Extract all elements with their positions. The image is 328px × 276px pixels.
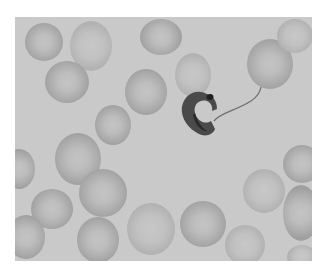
- trypanosome-parasite: [15, 17, 312, 261]
- micrograph-image: [15, 17, 312, 261]
